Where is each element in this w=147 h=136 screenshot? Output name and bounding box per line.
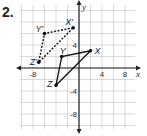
vertex-label: X — [94, 46, 102, 56]
vertex-point — [54, 83, 58, 87]
vertex-point — [37, 60, 41, 64]
vertex-label: Z' — [29, 57, 37, 67]
vertex-label: Y — [60, 46, 67, 56]
coordinate-plane: xy-8484-4-8XYZX'Y'Z' — [0, 0, 147, 136]
vertex-label: Y' — [36, 24, 44, 34]
x-tick-label: 4 — [100, 70, 105, 79]
y-axis-label: y — [81, 2, 86, 12]
x-tick-label: -8 — [29, 70, 37, 79]
y-tick-label: -4 — [70, 87, 78, 96]
vertex-label: X' — [64, 17, 73, 27]
y-axis-down-arrow-icon — [77, 129, 82, 134]
y-tick-label: 4 — [73, 41, 78, 50]
x-axis-label: x — [135, 69, 140, 79]
y-axis-up-arrow-icon — [77, 0, 82, 5]
vertex-label: Z — [46, 79, 53, 89]
x-axis-left-arrow-icon — [16, 66, 21, 71]
vertex-point — [89, 49, 93, 53]
x-tick-label: 8 — [123, 70, 128, 79]
y-tick-label: -8 — [70, 110, 78, 119]
vertex-point — [43, 32, 47, 36]
